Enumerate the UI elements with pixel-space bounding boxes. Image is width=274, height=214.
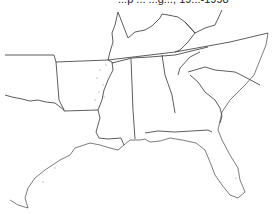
- kentucky-tennessee-border: [108, 33, 268, 60]
- oklahoma-kansas-arkansas-border: [54, 55, 108, 62]
- red-river: [5, 95, 64, 110]
- alabama-georgia-border: [162, 55, 175, 113]
- arkansas-louisiana-border: [64, 110, 98, 111]
- kentucky-north-border: [118, 10, 222, 38]
- virginia-west-border: [175, 22, 195, 52]
- mississippi-river: [96, 12, 124, 145]
- mississippi-alabama-border: [131, 59, 135, 139]
- south-carolina-border: [188, 67, 260, 85]
- arkansas-west-border: [56, 62, 64, 110]
- state-boundary-map: [0, 0, 274, 214]
- georgia-florida-border: [145, 130, 212, 133]
- atlantic-coast: [10, 33, 268, 208]
- data-stipple: [42, 44, 239, 183]
- savannah-river: [190, 75, 222, 123]
